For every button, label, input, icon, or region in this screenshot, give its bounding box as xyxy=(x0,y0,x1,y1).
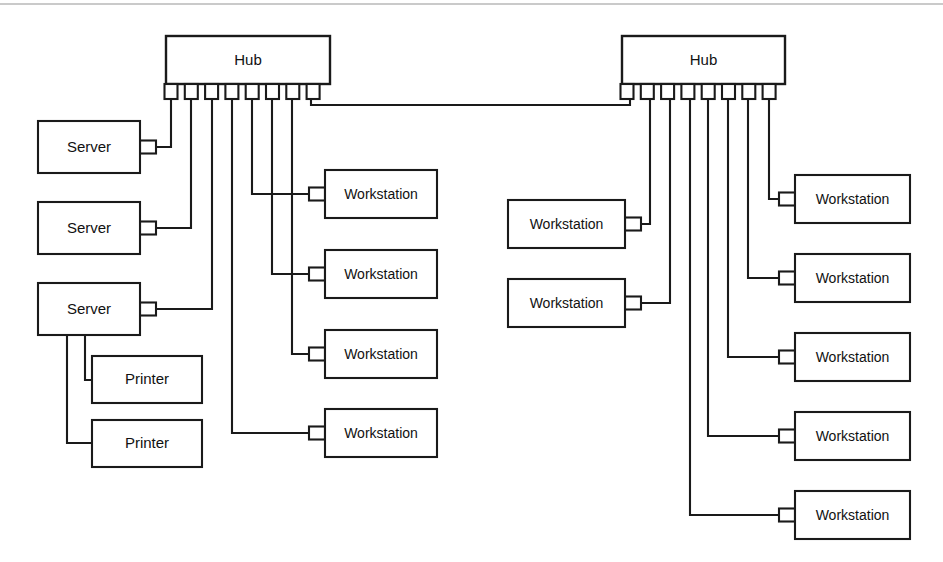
connection-line xyxy=(637,99,670,303)
workstation-label: Workstation xyxy=(816,191,890,207)
workstation-label: Workstation xyxy=(344,425,418,441)
hub-port[interactable] xyxy=(661,84,674,99)
network-connector-tab xyxy=(309,348,325,361)
connection-line xyxy=(292,99,313,354)
hub-port[interactable] xyxy=(266,84,279,99)
network-connector-tab xyxy=(309,188,325,201)
hub-port[interactable] xyxy=(722,84,735,99)
workstation-node[interactable]: Workstation xyxy=(779,333,910,381)
workstation-label: Workstation xyxy=(816,349,890,365)
network-connector-tab xyxy=(140,303,156,316)
hubs-layer: HubHub xyxy=(165,36,786,99)
hub-port[interactable] xyxy=(621,84,634,99)
workstation-node[interactable]: Workstation xyxy=(779,412,910,460)
hub-port[interactable] xyxy=(286,84,299,99)
connection-line xyxy=(67,335,92,443)
server-label: Server xyxy=(67,138,111,155)
hub-port[interactable] xyxy=(246,84,259,99)
network-connector-tab xyxy=(625,218,641,231)
workstation-label: Workstation xyxy=(816,270,890,286)
printer-label: Printer xyxy=(125,370,169,387)
hub-port[interactable] xyxy=(205,84,218,99)
hub-port[interactable] xyxy=(641,84,654,99)
hub-port[interactable] xyxy=(742,84,755,99)
connection-line xyxy=(152,99,212,309)
hub-port[interactable] xyxy=(307,84,320,99)
network-diagram-svg: HubHub ServerServerServerPrinterPrinterW… xyxy=(0,0,943,562)
workstation-node[interactable]: Workstation xyxy=(779,491,910,539)
server-label: Server xyxy=(67,300,111,317)
hub-label: Hub xyxy=(234,51,262,68)
network-connector-tab xyxy=(779,272,795,285)
workstation-node[interactable]: Workstation xyxy=(508,200,641,248)
network-connector-tab xyxy=(779,430,795,443)
workstation-node[interactable]: Workstation xyxy=(309,170,437,218)
network-diagram-canvas: HubHub ServerServerServerPrinterPrinterW… xyxy=(0,0,943,562)
hub-port[interactable] xyxy=(681,84,694,99)
hub-label: Hub xyxy=(690,51,718,68)
network-connector-tab xyxy=(309,268,325,281)
workstation-node[interactable]: Workstation xyxy=(779,254,910,302)
connection-line xyxy=(728,99,783,357)
connection-line xyxy=(311,99,630,105)
workstation-node[interactable]: Workstation xyxy=(309,330,437,378)
network-connector-tab xyxy=(140,222,156,235)
workstation-label: Workstation xyxy=(816,507,890,523)
connection-line xyxy=(252,99,313,194)
device-nodes-layer: ServerServerServerPrinterPrinterWorkstat… xyxy=(38,121,910,539)
network-connector-tab xyxy=(309,427,325,440)
workstation-label: Workstation xyxy=(530,216,604,232)
hub-port[interactable] xyxy=(763,84,776,99)
network-connector-tab xyxy=(625,297,641,310)
connection-line xyxy=(748,99,783,278)
printer-node[interactable]: Printer xyxy=(92,356,202,403)
network-connector-tab xyxy=(779,351,795,364)
connection-line xyxy=(85,335,92,380)
hub-port[interactable] xyxy=(165,84,178,99)
hub-port[interactable] xyxy=(225,84,238,99)
workstation-label: Workstation xyxy=(344,266,418,282)
network-connector-tab xyxy=(140,141,156,154)
workstation-node[interactable]: Workstation xyxy=(309,409,437,457)
connection-line xyxy=(637,99,650,224)
server-node[interactable]: Server xyxy=(38,283,156,335)
workstation-node[interactable]: Workstation xyxy=(309,250,437,298)
workstation-node[interactable]: Workstation xyxy=(508,279,641,327)
network-connector-tab xyxy=(779,193,795,206)
server-label: Server xyxy=(67,219,111,236)
printer-node[interactable]: Printer xyxy=(92,420,202,467)
hub-node[interactable]: Hub xyxy=(621,36,786,99)
hub-port[interactable] xyxy=(185,84,198,99)
workstation-node[interactable]: Workstation xyxy=(779,175,910,223)
hub-port[interactable] xyxy=(702,84,715,99)
server-node[interactable]: Server xyxy=(38,121,156,173)
workstation-label: Workstation xyxy=(530,295,604,311)
workstation-label: Workstation xyxy=(344,186,418,202)
server-node[interactable]: Server xyxy=(38,202,156,254)
hub-node[interactable]: Hub xyxy=(165,36,331,99)
network-connector-tab xyxy=(779,509,795,522)
printer-label: Printer xyxy=(125,434,169,451)
workstation-label: Workstation xyxy=(344,346,418,362)
connection-line xyxy=(769,99,783,199)
connection-line xyxy=(708,99,783,436)
workstation-label: Workstation xyxy=(816,428,890,444)
